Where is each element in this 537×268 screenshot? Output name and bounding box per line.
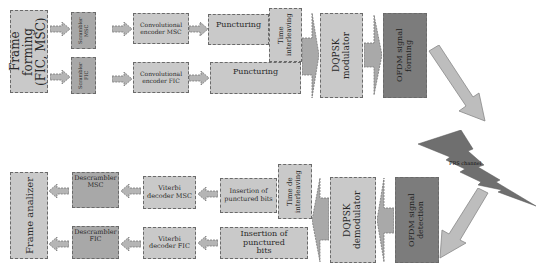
conv-encoder-msc-block: Convolutional encoder MSC <box>133 13 189 44</box>
scrambler-fic-block: Scrambler FIC <box>71 57 96 94</box>
split-arrow-icon <box>312 178 329 262</box>
scrambler-msc-block: Scrambler MSC <box>71 12 96 49</box>
arrow-left-icon <box>121 237 141 251</box>
arrow-left-icon <box>377 178 394 262</box>
frame-analizer-block: Frame analizer <box>10 172 48 259</box>
scrambler-fic-label: Scrambler FIC <box>78 58 89 93</box>
arrow-right-icon <box>189 22 208 36</box>
dqpsk-modulator-label: DQPSK modulator <box>332 14 352 97</box>
descrambler-fic-label: Descrambler FIC <box>74 229 116 243</box>
ofdm-forming-label: OFDM signal forming <box>396 14 414 97</box>
viterbi-fic-label: Viterbi decoder FIC <box>146 236 193 250</box>
arrow-left-icon <box>49 184 69 198</box>
conv-encoder-msc-label: Convolutional encoder MSC <box>136 22 186 35</box>
descrambler-fic-block: Descrambler FIC <box>72 226 119 259</box>
ofdm-detection-block: OFDM signal detection <box>395 177 439 263</box>
arrow-right-icon <box>112 22 132 36</box>
dqpsk-demodulator-block: DQPSK demodulator <box>330 177 376 263</box>
arrow-left-icon <box>49 237 69 251</box>
dqpsk-modulator-block: DQPSK modulator <box>320 13 363 98</box>
time-interleaving-block: Time interleaving <box>269 8 302 62</box>
time-deinterleaving-label: Time de interleaving <box>287 165 302 218</box>
ofdm-forming-block: OFDM signal forming <box>383 13 427 98</box>
arrow-left-icon <box>198 236 218 250</box>
merge-arrow-icon <box>302 13 319 98</box>
conv-encoder-fic-label: Convolutional encoder FIC <box>136 71 186 84</box>
insertion-msc-block: Insertion of punctured bits <box>220 178 277 213</box>
frame-analizer-label: Frame analizer <box>24 177 35 254</box>
arrow-right-icon <box>50 70 70 84</box>
viterbi-msc-label: Viterbi decoder MSC <box>146 185 193 199</box>
insertion-msc-label: Insertion of punctured bits <box>223 188 274 202</box>
puncturing-msc-block: Puncturing <box>208 14 269 45</box>
puncturing-fic-block: Puncturing <box>210 62 301 94</box>
descrambler-msc-block: Descrambler MSC <box>72 172 119 208</box>
viterbi-fic-block: Viterbi decoder FIC <box>143 227 196 259</box>
arrow-right-icon <box>50 22 70 36</box>
insertion-fic-label: Insertion of punctured bits <box>235 230 293 256</box>
arrow-to-channel-icon <box>425 45 490 125</box>
arrow-right-icon <box>189 71 209 85</box>
scrambler-msc-label: Scrambler MSC <box>78 13 89 48</box>
arrow-right-icon <box>112 72 132 86</box>
insertion-fic-block: Insertion of punctured bits <box>220 227 308 259</box>
dqpsk-demodulator-label: DQPSK demodulator <box>343 178 363 262</box>
conv-encoder-fic-block: Convolutional encoder FIC <box>133 62 189 93</box>
arrow-from-channel-icon <box>438 188 490 260</box>
ofdm-detection-label: OFDM signal detection <box>408 178 426 262</box>
channel-label: FRS channel <box>449 160 481 166</box>
viterbi-msc-block: Viterbi decoder MSC <box>143 176 196 209</box>
time-interleaving-label: Time interleaving <box>278 9 293 61</box>
descrambler-msc-label: Descrambler MSC <box>74 175 116 189</box>
arrow-left-icon <box>121 184 141 198</box>
arrow-right-icon <box>364 15 382 95</box>
frame-forming-label: Frame forming (FIC, MSC) <box>9 11 49 92</box>
puncturing-msc-label: Puncturing <box>216 21 261 30</box>
arrow-left-icon <box>198 187 218 201</box>
frame-forming-block: Frame forming (FIC, MSC) <box>10 10 48 93</box>
time-deinterleaving-block: Time de interleaving <box>278 164 312 219</box>
puncturing-fic-label: Puncturing <box>233 68 278 77</box>
